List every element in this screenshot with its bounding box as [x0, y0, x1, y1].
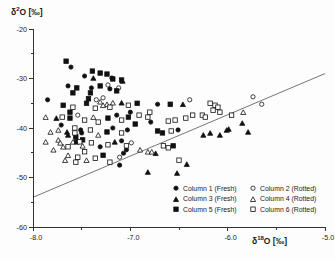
data-point-square-filled — [105, 72, 109, 76]
data-point-circle-filled — [176, 128, 180, 132]
data-point-square-filled — [98, 84, 102, 88]
data-point-circle-open — [251, 95, 255, 99]
data-point-circle-filled — [111, 126, 115, 130]
data-point-square-open — [106, 143, 110, 147]
data-point-square-open — [229, 113, 233, 117]
data-point-circle-open — [129, 141, 133, 145]
x-axis-title-superscript: 18 — [257, 235, 264, 241]
data-point-square-filled — [88, 91, 92, 95]
data-point-triangle-open — [43, 115, 48, 120]
data-point-square-open — [137, 113, 141, 117]
y-tick-label: -40 — [17, 124, 27, 133]
data-point-square-open — [119, 131, 123, 135]
data-point-triangle-open — [110, 100, 115, 105]
data-point-circle-filled — [155, 102, 159, 106]
data-point-square-open — [93, 106, 97, 110]
data-point-triangle-filled — [208, 131, 213, 136]
data-point-circle-open — [118, 155, 122, 159]
data-point-triangle-open — [56, 128, 61, 133]
data-point-square-open — [166, 119, 170, 123]
data-point-square-open — [93, 156, 97, 160]
data-point-triangle-filled — [145, 170, 150, 175]
legend-label: Column 1 (Fresh) — [183, 185, 237, 192]
data-point-circle-open — [94, 98, 98, 102]
circle-open-marker-icon — [249, 184, 257, 192]
data-point-circle-filled — [108, 87, 112, 91]
data-point-triangle-filled — [175, 171, 180, 176]
data-point-square-filled — [171, 144, 175, 148]
data-point-triangle-open — [65, 153, 70, 158]
chart-legend: Column 1 (Fresh)Column 2 (Rotted)Column … — [172, 183, 334, 215]
data-point-square-open — [184, 116, 188, 120]
legend-label: Column 2 (Rotted) — [260, 185, 316, 192]
data-point-triangle-open — [84, 158, 89, 163]
legend-label: Column 5 (Fresh) — [183, 206, 237, 213]
data-point-square-open — [169, 129, 173, 133]
x-tick-label: -6.0 — [224, 233, 236, 242]
data-point-triangle-open — [51, 147, 56, 152]
data-point-square-open — [108, 105, 112, 109]
data-point-square-open — [60, 115, 64, 119]
data-point-square-open — [82, 150, 86, 154]
data-point-square-filled — [61, 103, 65, 107]
data-point-square-open — [211, 108, 215, 112]
data-point-circle-open — [188, 98, 192, 102]
data-point-square-filled — [98, 71, 102, 75]
data-point-triangle-open — [48, 130, 53, 135]
legend-item-5: Column 5 (Fresh) — [172, 205, 249, 213]
data-point-square-open — [74, 160, 78, 164]
data-point-square-filled — [101, 153, 105, 157]
data-point-circle-filled — [128, 110, 132, 114]
data-point-circle-filled — [149, 120, 153, 124]
data-point-square-open — [177, 158, 181, 162]
triangle-open-marker-icon — [249, 195, 257, 203]
data-point-square-open — [251, 207, 255, 211]
data-point-square-open — [96, 120, 100, 124]
x-tick-label: -5.0 — [322, 233, 334, 242]
data-point-square-filled — [75, 86, 79, 90]
data-point-square-open — [216, 105, 220, 109]
legend-item-1: Column 1 (Fresh) — [172, 184, 249, 192]
data-point-square-open — [89, 141, 93, 145]
scatter-plot-canvas: -8.0-7.0-6.0-5.0-20-30-40-50-60 — [0, 0, 335, 259]
data-point-circle-open — [251, 186, 255, 190]
data-point-square-open — [78, 140, 82, 144]
triangle-filled-marker-icon — [172, 195, 180, 203]
legend-item-6: Column 6 (Rotted) — [249, 205, 334, 213]
data-point-square-open — [166, 146, 170, 150]
data-point-square-filled — [135, 101, 139, 105]
data-point-square-open — [161, 144, 165, 148]
data-point-triangle-open — [250, 197, 255, 202]
data-point-circle-filled — [115, 113, 119, 117]
circle-filled-marker-icon — [172, 184, 180, 192]
data-point-square-open — [148, 110, 152, 114]
x-axis-title-unit: O [‰] — [264, 236, 287, 246]
legend-item-3: Column 3 (Fresh) — [172, 195, 249, 203]
data-point-triangle-open — [138, 147, 143, 152]
data-point-circle-filled — [119, 139, 123, 143]
data-point-triangle-open — [63, 158, 68, 163]
data-point-circle-filled — [59, 123, 63, 127]
data-point-square-filled — [174, 207, 178, 211]
data-point-square-filled — [115, 89, 119, 93]
x-tick-label: -7.0 — [127, 233, 139, 242]
legend-label: Column 3 (Fresh) — [183, 195, 237, 202]
data-point-square-filled — [64, 59, 68, 63]
data-point-circle-open — [101, 96, 105, 100]
data-point-square-filled — [119, 78, 123, 82]
data-point-circle-filled — [45, 98, 49, 102]
square-open-marker-icon — [249, 205, 257, 213]
data-point-square-open — [208, 101, 212, 105]
y-tick-label: -60 — [17, 223, 27, 232]
data-point-square-filled — [106, 116, 110, 120]
data-point-circle-filled — [80, 131, 84, 135]
data-point-square-filled — [133, 122, 137, 126]
data-point-triangle-filled — [180, 102, 185, 107]
data-point-square-open — [73, 131, 77, 135]
data-point-square-open — [146, 115, 150, 119]
data-point-triangle-filled — [201, 133, 206, 138]
data-point-square-open — [108, 160, 112, 164]
legend-item-4: Column 4 (Rotted) — [249, 195, 334, 203]
square-filled-marker-icon — [172, 205, 180, 213]
data-point-triangle-filled — [240, 121, 245, 126]
